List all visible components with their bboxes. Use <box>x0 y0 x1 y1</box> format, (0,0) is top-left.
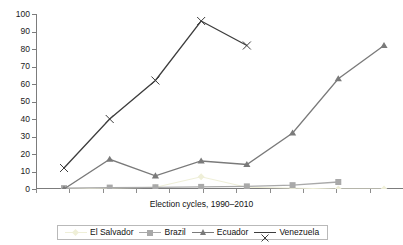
x-axis-tick <box>203 189 204 193</box>
x-axis-ticks <box>0 189 403 194</box>
legend-label: Ecuador <box>217 228 252 237</box>
x-axis-tick <box>270 189 271 193</box>
legend-key-cross-icon <box>254 228 276 237</box>
data-point-diamond <box>381 186 388 189</box>
legend-item-venezuela[interactable]: Venezuela <box>251 228 322 237</box>
data-point-triangle <box>106 156 113 162</box>
x-axis-tick <box>336 189 337 193</box>
data-point-triangle <box>380 42 387 48</box>
y-axis-tick-label: 80 <box>21 45 30 54</box>
legend-item-el-salvador[interactable]: El Salvador <box>62 228 136 237</box>
y-axis-tick-label: 60 <box>21 80 30 89</box>
legend-label: El Salvador <box>90 228 136 237</box>
y-axis-tick-label: 10 <box>21 167 30 176</box>
data-point-triangle <box>198 157 205 163</box>
y-axis-tick-label: 40 <box>21 115 30 124</box>
y-axis-tick-label: 70 <box>21 62 30 71</box>
y-axis-tick-label: 100 <box>16 10 30 19</box>
data-point-cross <box>60 164 68 172</box>
data-point-square <box>107 185 113 189</box>
x-axis-tick <box>303 189 304 193</box>
data-point-square <box>152 184 158 189</box>
data-point-cross <box>197 17 205 25</box>
series-venezuela <box>60 17 251 172</box>
data-point-square <box>335 179 341 185</box>
x-axis-tick <box>103 189 104 193</box>
legend-marker-triangle-icon <box>200 229 206 235</box>
y-axis-tick-label: 90 <box>21 27 30 36</box>
legend-marker-diamond-icon <box>72 229 79 236</box>
plot-area <box>36 14 403 189</box>
legend-item-brazil[interactable]: Brazil <box>136 228 188 237</box>
x-axis-tick <box>370 189 371 193</box>
x-axis-tick <box>169 189 170 193</box>
series-brazil <box>61 179 341 189</box>
series-layer <box>36 14 403 189</box>
legend-marker-cross-icon <box>261 228 269 236</box>
y-axis-tick-label: 30 <box>21 132 30 141</box>
series-line <box>64 21 247 168</box>
legend-label: Venezuela <box>279 228 322 237</box>
data-point-cross <box>106 115 114 123</box>
y-axis-tick-label: 50 <box>21 97 30 106</box>
x-axis-tick <box>236 189 237 193</box>
series-ecuador <box>60 42 387 189</box>
legend-key-diamond-icon <box>65 228 87 237</box>
data-point-diamond <box>335 186 342 189</box>
legend-item-ecuador[interactable]: Ecuador <box>189 228 252 237</box>
x-axis-title: Election cycles, 1990–2010 <box>0 199 403 209</box>
chart-legend: El SalvadorBrazilEcuadorVenezuela <box>57 225 328 240</box>
legend-label: Brazil <box>164 228 188 237</box>
data-point-square <box>244 183 250 189</box>
data-point-square <box>198 184 204 189</box>
x-axis-tick <box>36 189 37 193</box>
data-point-square <box>290 182 296 188</box>
y-axis-labels: 0102030405060708090100 <box>0 0 36 203</box>
data-point-cross <box>151 77 159 85</box>
x-axis-tick <box>136 189 137 193</box>
legend-key-square-icon <box>139 228 161 237</box>
legend-marker-square-icon <box>147 230 153 236</box>
data-point-triangle <box>335 75 342 81</box>
data-point-cross <box>243 42 251 50</box>
x-axis-tick <box>69 189 70 193</box>
y-axis-tick-label: 20 <box>21 150 30 159</box>
legend-key-triangle-icon <box>192 228 214 237</box>
chart-figure: 0102030405060708090100 Election cycles, … <box>0 0 403 245</box>
data-point-diamond <box>198 173 205 180</box>
